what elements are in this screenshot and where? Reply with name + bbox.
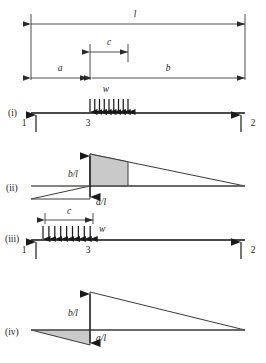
panel-label-i: (i) (8, 108, 17, 119)
figure-canvas: l c a b (i) w (0, 0, 266, 363)
dimension-label-c: c (107, 37, 112, 47)
node-label-1-iii: 1 (22, 245, 27, 255)
panel-ii: (ii) b/l a/l (6, 154, 245, 207)
distributed-load-iii (43, 226, 90, 239)
influence-triangle-iv (90, 292, 245, 330)
node-label-2-iii: 2 (251, 245, 256, 255)
dimension-label-c-iii: c (67, 206, 72, 216)
distributed-load-i (90, 99, 128, 112)
panel-label-iv: (iv) (5, 327, 19, 338)
load-label-w-i: w (103, 84, 110, 94)
dimension-label-l: l (134, 9, 137, 19)
label-bl-ii: b/l (68, 169, 78, 179)
node-label-3-i: 3 (86, 118, 91, 128)
influence-lower-wing-ii (31, 186, 90, 199)
node-label-1-i: 1 (22, 118, 27, 128)
dimension-label-a: a (58, 63, 63, 73)
panel-i: (i) w 1 3 2 (8, 84, 256, 132)
dimension-block: l c a b (31, 9, 245, 80)
panel-label-iii: (iii) (5, 234, 19, 245)
dimension-label-b: b (166, 63, 171, 73)
node-label-2-i: 2 (251, 118, 256, 128)
panel-iv: (iv) b/l a/l (5, 292, 245, 345)
node-label-3-iii: 3 (86, 245, 91, 255)
load-label-w-iii: w (99, 224, 106, 234)
panel-label-ii: (ii) (6, 183, 18, 194)
label-bl-iv: b/l (68, 308, 78, 318)
panel-iii: (iii) c w 1 3 2 (5, 206, 256, 259)
shaded-area-ii (90, 154, 128, 186)
shaded-area-iv (31, 330, 90, 345)
label-al-ii: a/l (96, 197, 106, 207)
label-al-iv: a/l (96, 333, 106, 343)
beam-diagram-figure: l c a b (i) w (0, 0, 266, 363)
